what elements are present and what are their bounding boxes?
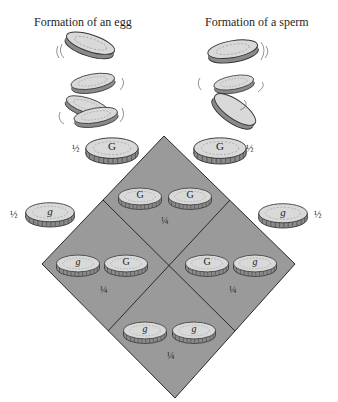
svg-text:G: G [203,256,210,267]
sperm-toss-coins [198,37,268,135]
cell-right-probability: ¼ [229,284,237,295]
svg-text:g: g [253,256,258,267]
sperm-g-probability: ½ [314,209,322,220]
svg-text:g: g [76,256,81,267]
sperm-G-probability: ½ [246,143,254,154]
cell-top-probability: ¼ [161,215,169,226]
svg-text:g: g [192,323,197,334]
gamete-coin-egg-G: G [86,138,138,164]
svg-text:G: G [136,189,143,200]
egg-g-probability: ½ [10,209,18,220]
cell-bottom-probability: ¼ [167,350,175,361]
diagram-canvas: G G g g G G g G G g g g [0,0,338,402]
svg-text:g: g [280,206,286,218]
gamete-coin-sperm-g: g [259,204,308,228]
egg-toss-coins [57,27,124,130]
svg-text:G: G [122,256,129,267]
gamete-coin-sperm-G: G [194,138,246,164]
egg-G-probability: ½ [72,143,80,154]
svg-text:G: G [108,140,116,152]
egg-formation-title: Formation of an egg [34,15,132,30]
svg-text:G: G [216,140,224,152]
gamete-coin-egg-g: g [26,203,75,227]
svg-text:g: g [143,323,148,334]
svg-text:g: g [47,205,53,217]
cell-left-probability: ¼ [100,284,108,295]
svg-text:G: G [186,189,193,200]
sperm-formation-title: Formation of a sperm [205,15,309,30]
